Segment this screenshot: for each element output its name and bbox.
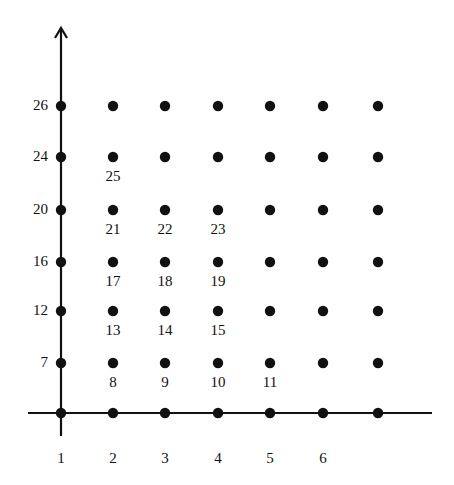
lattice-point (373, 358, 383, 368)
y-tick-label: 12 (18, 303, 48, 318)
y-tick-label: 24 (18, 149, 48, 164)
lattice-point (160, 358, 170, 368)
lattice-point (265, 306, 275, 316)
point-label: 10 (206, 375, 230, 390)
lattice-point (318, 152, 328, 162)
x-tick-label: 1 (51, 451, 71, 466)
lattice-point (56, 306, 66, 316)
y-tick-label: 16 (18, 254, 48, 269)
lattice-point (108, 101, 118, 111)
y-tick-label: 20 (18, 202, 48, 217)
lattice-point (213, 205, 223, 215)
lattice-point (160, 408, 170, 418)
lattice-point (56, 152, 66, 162)
lattice-point (160, 205, 170, 215)
lattice-point (160, 257, 170, 267)
lattice-point (160, 101, 170, 111)
lattice-point (213, 358, 223, 368)
lattice-diagram: 1234567121620242689101113141517181921222… (0, 0, 454, 485)
point-label: 15 (206, 323, 230, 338)
lattice-point (373, 205, 383, 215)
point-label: 19 (206, 274, 230, 289)
lattice-point (108, 306, 118, 316)
lattice-point (318, 408, 328, 418)
point-label: 23 (206, 222, 230, 237)
lattice-point (373, 408, 383, 418)
y-tick-label: 7 (18, 355, 48, 370)
lattice-point (265, 205, 275, 215)
point-label: 8 (101, 375, 125, 390)
lattice-point (373, 152, 383, 162)
lattice-point (56, 408, 66, 418)
lattice-point (213, 257, 223, 267)
point-label: 14 (153, 323, 177, 338)
lattice-point (373, 101, 383, 111)
point-label: 11 (258, 375, 282, 390)
point-label: 21 (101, 222, 125, 237)
point-label: 17 (101, 274, 125, 289)
lattice-point (213, 152, 223, 162)
lattice-point (56, 101, 66, 111)
point-label: 22 (153, 222, 177, 237)
lattice-point (108, 205, 118, 215)
x-tick-label: 2 (103, 451, 123, 466)
lattice-plot (0, 0, 454, 485)
lattice-point (56, 257, 66, 267)
lattice-points (56, 101, 383, 418)
lattice-point (108, 408, 118, 418)
lattice-point (265, 152, 275, 162)
lattice-point (160, 306, 170, 316)
lattice-point (108, 358, 118, 368)
x-tick-label: 4 (208, 451, 228, 466)
point-label: 9 (153, 375, 177, 390)
point-label: 25 (101, 169, 125, 184)
lattice-point (318, 257, 328, 267)
lattice-point (373, 306, 383, 316)
lattice-point (265, 408, 275, 418)
lattice-point (108, 152, 118, 162)
point-label: 13 (101, 323, 125, 338)
lattice-point (56, 358, 66, 368)
lattice-point (56, 205, 66, 215)
point-label: 18 (153, 274, 177, 289)
lattice-point (318, 358, 328, 368)
lattice-point (373, 257, 383, 267)
x-tick-label: 6 (313, 451, 333, 466)
lattice-point (213, 306, 223, 316)
lattice-point (108, 257, 118, 267)
x-tick-label: 3 (155, 451, 175, 466)
lattice-point (213, 101, 223, 111)
lattice-point (318, 101, 328, 111)
lattice-point (265, 358, 275, 368)
lattice-point (318, 306, 328, 316)
lattice-point (160, 152, 170, 162)
lattice-point (213, 408, 223, 418)
lattice-point (318, 205, 328, 215)
x-tick-label: 5 (260, 451, 280, 466)
lattice-point (265, 101, 275, 111)
y-tick-label: 26 (18, 98, 48, 113)
lattice-point (265, 257, 275, 267)
